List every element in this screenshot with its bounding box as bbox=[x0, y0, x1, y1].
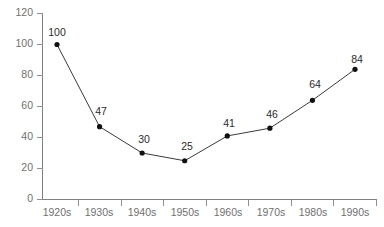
data-point-1950s bbox=[182, 158, 187, 163]
data-point-1920s bbox=[54, 42, 59, 47]
y-tick-label-80: 80 bbox=[21, 68, 33, 80]
x-axis-ticks bbox=[79, 200, 377, 206]
x-axis-tick-labels: 1920s 1930s 1940s 1950s 1960s 1970s 1980… bbox=[43, 206, 370, 218]
point-label-1950s: 25 bbox=[181, 140, 193, 152]
data-point-1980s bbox=[310, 98, 315, 103]
y-tick-label-40: 40 bbox=[21, 130, 33, 142]
y-tick-label-20: 20 bbox=[21, 161, 33, 173]
point-label-1980s: 64 bbox=[309, 78, 321, 90]
y-tick-label-0: 0 bbox=[27, 192, 33, 204]
point-label-1930s: 47 bbox=[95, 105, 107, 117]
x-tick-label-1940s: 1940s bbox=[128, 206, 157, 218]
y-axis-tick-labels: 0 20 40 60 80 100 120 bbox=[15, 6, 33, 204]
data-point-1940s bbox=[140, 150, 145, 155]
x-tick-label-1950s: 1950s bbox=[171, 206, 200, 218]
x-tick-label-1920s: 1920s bbox=[43, 206, 72, 218]
data-point-1960s bbox=[225, 133, 230, 138]
y-tick-label-60: 60 bbox=[21, 99, 33, 111]
y-tick-label-120: 120 bbox=[15, 6, 33, 18]
x-tick-label-1990s: 1990s bbox=[341, 206, 370, 218]
y-tick-label-100: 100 bbox=[15, 37, 33, 49]
x-tick-label-1960s: 1960s bbox=[214, 206, 243, 218]
x-axis: 1920s 1930s 1940s 1950s 1960s 1970s 1980… bbox=[43, 200, 378, 219]
data-point-1970s bbox=[267, 126, 272, 131]
point-label-1920s: 100 bbox=[48, 26, 66, 38]
series-markers bbox=[54, 42, 357, 163]
x-tick-label-1970s: 1970s bbox=[257, 206, 286, 218]
data-point-1990s bbox=[352, 67, 357, 72]
data-point-labels: 100 47 30 25 41 46 64 84 bbox=[48, 26, 363, 152]
y-axis-ticks bbox=[37, 14, 43, 200]
chart-canvas: 0 20 40 60 80 100 120 1920 bbox=[0, 0, 384, 227]
x-tick-label-1930s: 1930s bbox=[85, 206, 114, 218]
line-chart: 0 20 40 60 80 100 120 1920 bbox=[0, 0, 384, 227]
data-point-1930s bbox=[97, 124, 102, 129]
point-label-1940s: 30 bbox=[138, 133, 150, 145]
point-label-1990s: 84 bbox=[351, 53, 363, 65]
x-tick-label-1980s: 1980s bbox=[299, 206, 328, 218]
point-label-1970s: 46 bbox=[266, 108, 278, 120]
y-axis: 0 20 40 60 80 100 120 bbox=[15, 6, 42, 204]
point-label-1960s: 41 bbox=[223, 117, 235, 129]
series-line bbox=[57, 45, 355, 161]
data-series bbox=[54, 42, 357, 163]
